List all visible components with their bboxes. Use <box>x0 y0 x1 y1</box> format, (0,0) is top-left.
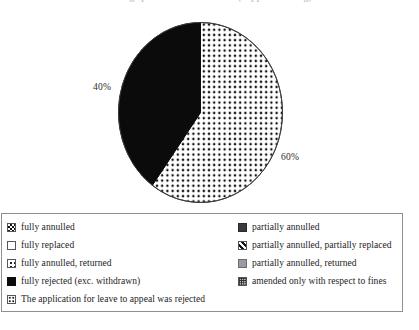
legend-item: partially annulled, returned <box>238 254 404 272</box>
legend-item: fully annulled <box>7 218 239 236</box>
solid-black-swatch-icon <box>7 277 16 286</box>
legend-item-label: partially annulled, returned <box>252 258 357 269</box>
legend-item-label: fully annulled <box>21 222 75 233</box>
legend-item-label: partially annulled, partially replaced <box>252 240 392 251</box>
mid-gray-swatch-icon <box>238 259 247 268</box>
legend-item: amended only with respect to fines <box>238 272 404 290</box>
checker-pattern-swatch-icon <box>7 223 16 232</box>
fine-grid-swatch-icon <box>238 277 247 286</box>
chart-title-text: Erfolgsquote der Rechtsmittel (clipped h… <box>0 0 419 2</box>
pie-label-right: 60% <box>281 152 299 162</box>
dark-gray-swatch-icon <box>238 223 247 232</box>
coarse-dots-swatch-icon <box>7 295 16 304</box>
legend-item: partially annulled <box>238 218 404 236</box>
legend-item: fully rejected (exc. withdrawn) <box>7 272 239 290</box>
legend-item-label: fully rejected (exc. withdrawn) <box>21 276 140 287</box>
diagonal-stripe-swatch-icon <box>238 241 247 250</box>
legend-item-label: amended only with respect to fines <box>252 276 386 287</box>
legend-item: partially annulled, partially replaced <box>238 236 404 254</box>
legend-column-right: partially annulled partially annulled, p… <box>238 218 404 290</box>
pie-chart <box>118 22 283 203</box>
legend-item: fully annulled, returned <box>7 254 239 272</box>
legend-item-label: partially annulled <box>252 222 320 233</box>
center-dot-swatch-icon <box>7 259 16 268</box>
clipped-chart-title: Erfolgsquote der Rechtsmittel (clipped h… <box>0 0 419 9</box>
pie-label-left: 40% <box>93 82 111 92</box>
legend-item: The application for leave to appeal was … <box>7 290 239 308</box>
legend-item-label: fully replaced <box>21 240 74 251</box>
legend-item-label: The application for leave to appeal was … <box>21 294 205 305</box>
legend-column-left: fully annulled fully replaced fully annu… <box>7 218 239 308</box>
legend: fully annulled fully replaced fully annu… <box>1 213 403 312</box>
blank-swatch-icon <box>7 241 16 250</box>
legend-item: fully replaced <box>7 236 239 254</box>
pie-chart-area: 40% 60% <box>0 9 419 211</box>
legend-item-label: fully annulled, returned <box>21 258 112 269</box>
pie-chart-svg <box>118 22 283 203</box>
